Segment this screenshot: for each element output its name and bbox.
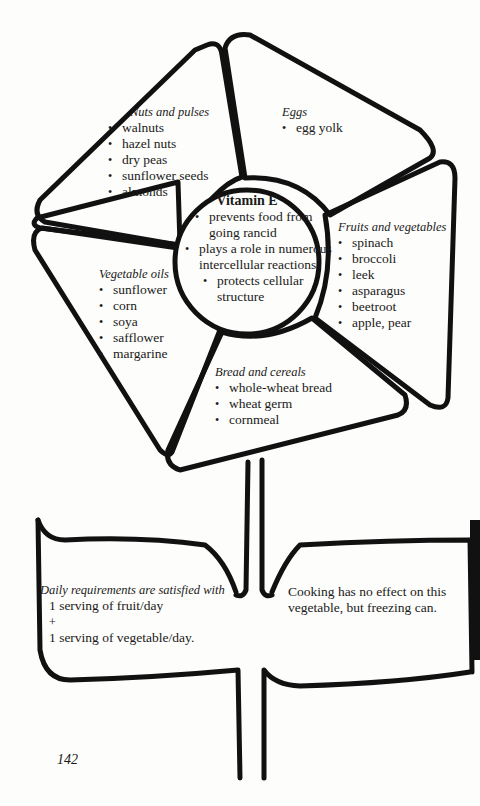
list-item: leek <box>338 267 446 283</box>
list-item: cornmeal <box>215 412 332 428</box>
list-item: corn <box>99 298 169 314</box>
petal-header: Vegetable oils <box>99 266 169 282</box>
list-item: protects cellular structure <box>203 273 325 305</box>
list-item: broccoli <box>338 251 446 267</box>
list-item: apple, pear <box>338 315 446 331</box>
page-edge-shadow <box>470 520 480 660</box>
list-item: soya <box>99 314 169 330</box>
petal-header: Fruits and vegetables <box>338 219 446 235</box>
list-item: beetroot <box>338 299 446 315</box>
list-item: spinach <box>338 235 446 251</box>
list-item: hazel nuts <box>108 136 209 152</box>
item-list: spinach broccoli leek asparagus beetroot… <box>338 235 446 331</box>
page-number: 142 <box>57 752 78 768</box>
leaf-line: 1 serving of fruit/day <box>40 598 225 614</box>
petal-header: Nuts and pulses <box>108 104 209 120</box>
item-list: egg yolk <box>282 120 343 136</box>
petal-bread-and-cereals: Bread and cereals whole-wheat bread whea… <box>215 364 332 428</box>
center-vitamin-e: Vitamin E prevents food from going ranci… <box>185 193 350 305</box>
petal-header: Eggs <box>282 104 343 120</box>
leaf-header: Daily requirements are satisfied with <box>40 582 225 598</box>
petal-vegetable-oils: Vegetable oils sunflower corn soya saffl… <box>99 266 169 362</box>
list-item: prevents food from going rancid <box>195 209 319 241</box>
list-item: walnuts <box>108 120 209 136</box>
list-item: whole-wheat bread <box>215 380 332 396</box>
item-list: walnuts hazel nuts dry peas sunflower se… <box>108 120 209 200</box>
leaf-right-cooking-note: Cooking has no effect on this vegetable,… <box>288 584 468 616</box>
petal-fruits-and-vegetables: Fruits and vegetables spinach broccoli l… <box>338 219 446 331</box>
item-list: sunflower corn soya safflower margarine <box>99 282 169 362</box>
plus-sign: + <box>40 614 225 630</box>
list-item: plays a role in numerous intercellular r… <box>185 241 354 273</box>
list-item: sunflower <box>99 282 169 298</box>
list-item: egg yolk <box>282 120 343 136</box>
petal-eggs: Eggs egg yolk <box>282 104 343 136</box>
list-item: margarine <box>99 346 169 362</box>
list-item: asparagus <box>338 283 446 299</box>
list-item: wheat germ <box>215 396 332 412</box>
list-item: safflower <box>99 330 169 346</box>
petal-nuts-and-pulses: Nuts and pulses walnuts hazel nuts dry p… <box>108 104 209 200</box>
list-item: dry peas <box>108 152 209 168</box>
petal-header: Bread and cereals <box>215 364 332 380</box>
leaf-left-daily-requirements: Daily requirements are satisfied with 1 … <box>40 582 225 646</box>
center-list: prevents food from going rancid plays a … <box>185 209 350 305</box>
leaf-line: 1 serving of vegetable/day. <box>40 630 225 646</box>
list-item: sunflower seeds <box>108 168 209 184</box>
item-list: whole-wheat bread wheat germ cornmeal <box>215 380 332 428</box>
center-title: Vitamin E <box>185 193 309 209</box>
